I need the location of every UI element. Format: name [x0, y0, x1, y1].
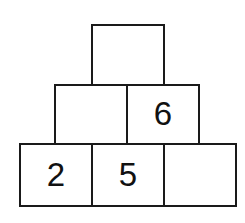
- pyramid-cell-middle-1[interactable]: [54, 84, 128, 145]
- pyramid-cell-middle-2[interactable]: 6: [126, 84, 200, 145]
- pyramid-row-bottom: 2 5: [19, 143, 237, 207]
- pyramid-cell-bottom-1[interactable]: 2: [19, 143, 93, 207]
- pyramid-cell-top-1[interactable]: [91, 24, 165, 86]
- pyramid-cell-bottom-3[interactable]: [163, 143, 237, 207]
- pyramid-cell-value: 6: [154, 97, 172, 130]
- pyramid-row-middle: 6: [54, 84, 200, 145]
- pyramid-cell-value: 2: [47, 158, 65, 191]
- pyramid-cell-bottom-2[interactable]: 5: [91, 143, 165, 207]
- number-pyramid-figure: 6 2 5: [0, 0, 245, 223]
- pyramid-cell-value: 5: [119, 158, 137, 191]
- pyramid-row-top: [91, 24, 165, 86]
